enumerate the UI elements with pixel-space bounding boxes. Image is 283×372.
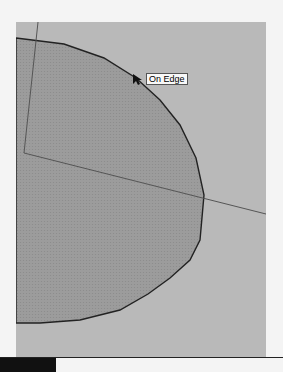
modeling-viewport[interactable]	[16, 22, 266, 357]
status-bar-indicator	[0, 358, 56, 372]
inference-tooltip: On Edge	[146, 73, 188, 85]
scene-canvas	[16, 22, 266, 357]
arrow-pointer-icon	[133, 74, 143, 86]
